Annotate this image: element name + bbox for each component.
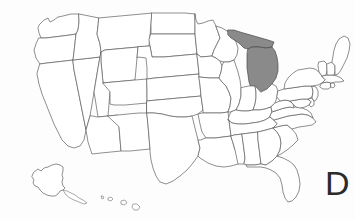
panel-letter-label: D xyxy=(325,166,350,200)
us-map-figure: D xyxy=(0,0,355,220)
hawaii-island-2 xyxy=(121,200,127,205)
state-arkansas[interactable] xyxy=(198,112,231,138)
hawaii-island-4 xyxy=(101,196,104,199)
state-maine[interactable] xyxy=(332,36,350,75)
hawaii-island-1 xyxy=(108,197,113,201)
state-connecticut[interactable] xyxy=(320,82,331,89)
state-north-dakota[interactable] xyxy=(151,13,195,34)
alaska-aleutian-chain xyxy=(63,190,87,204)
state-new-jersey[interactable] xyxy=(312,86,318,101)
state-texas[interactable] xyxy=(147,113,200,184)
us-map-svg xyxy=(0,0,355,220)
state-massachusetts[interactable] xyxy=(322,75,344,83)
state-rhode-island[interactable] xyxy=(331,83,335,88)
state-alaska[interactable] xyxy=(32,164,65,196)
state-pennsylvania[interactable] xyxy=(277,86,313,101)
state-colorado[interactable] xyxy=(103,79,147,105)
state-oregon[interactable] xyxy=(34,34,76,64)
state-south-dakota[interactable] xyxy=(149,34,197,57)
state-wyoming[interactable] xyxy=(101,47,138,83)
hawaii-island-3 xyxy=(132,204,140,210)
